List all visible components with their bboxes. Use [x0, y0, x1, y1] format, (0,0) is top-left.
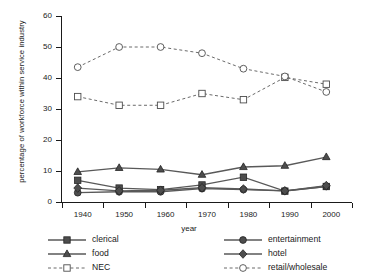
data-point-filled-diamond [240, 185, 248, 194]
y-tick-label: 20 [26, 135, 52, 144]
x-tick-label: 2000 [308, 210, 354, 219]
series-line [78, 186, 327, 191]
data-point-open-square [282, 74, 288, 80]
data-point-open-circle [281, 73, 288, 80]
y-tick [56, 16, 61, 17]
legend-label: retail/wholesale [268, 262, 327, 272]
legend-label: food [92, 248, 109, 258]
x-tick-label: 1940 [60, 210, 106, 219]
series-entertainment [74, 183, 329, 196]
data-point-open-square [199, 90, 205, 96]
legend-label: hotel [268, 248, 287, 258]
y-tick-label: 40 [26, 73, 52, 82]
legend-marker-open-circle-icon [222, 261, 264, 275]
x-tick-label: 1950 [101, 210, 147, 219]
y-tick [56, 78, 61, 79]
data-point-open-circle [116, 44, 123, 51]
data-point-filled-circle [74, 189, 81, 196]
data-point-open-square [75, 93, 81, 99]
data-point-filled-triangle [74, 168, 82, 175]
data-point-filled-circle [240, 186, 247, 193]
data-point-filled-diamond [281, 187, 289, 196]
y-tick-label: 30 [26, 104, 52, 113]
x-tick [311, 203, 312, 208]
y-tick-label: 10 [26, 166, 52, 175]
data-point-filled-square [116, 185, 122, 191]
legend-marker-filled-square-icon [46, 233, 88, 247]
y-tick-label: 60 [26, 11, 52, 20]
y-tick [56, 202, 61, 203]
data-point-open-circle [240, 265, 247, 272]
x-tick-label: 1980 [225, 210, 271, 219]
data-point-open-square [157, 102, 163, 108]
data-point-filled-circle [240, 237, 247, 244]
x-tick [228, 203, 229, 208]
series-line [78, 77, 327, 105]
x-tick [186, 203, 187, 208]
x-axis-line [61, 202, 352, 203]
data-point-open-circle [323, 89, 330, 96]
data-point-filled-triangle [115, 164, 123, 171]
series-line [78, 187, 327, 193]
data-point-open-circle [74, 64, 81, 71]
x-tick [145, 203, 146, 208]
y-tick [56, 171, 61, 172]
x-tick [269, 203, 270, 208]
x-tick [103, 203, 104, 208]
legend-label: entertainment [268, 234, 321, 244]
series-hotel [74, 181, 330, 195]
data-point-filled-diamond [322, 181, 330, 190]
data-point-open-square [116, 102, 122, 108]
legend-marker-filled-diamond-icon [222, 247, 264, 261]
series-NEC [75, 74, 330, 108]
x-tick [62, 203, 63, 208]
data-point-filled-triangle [281, 162, 289, 169]
data-point-filled-square [323, 183, 329, 189]
series-retail-wholesale [74, 44, 329, 96]
y-axis-title: percentage of workforce within service i… [17, 2, 26, 202]
y-tick [56, 109, 61, 110]
data-point-filled-circle [199, 185, 206, 192]
data-point-filled-triangle [322, 153, 330, 160]
data-point-filled-circle [157, 188, 164, 195]
series-line [78, 177, 327, 191]
series-line [78, 157, 327, 175]
data-point-open-circle [157, 44, 164, 51]
data-point-filled-diamond [239, 250, 247, 259]
data-point-open-square [64, 265, 70, 271]
x-tick-label: 1990 [267, 210, 313, 219]
data-point-open-square [240, 97, 246, 103]
data-point-filled-diamond [115, 187, 123, 196]
y-tick-label: 0 [26, 197, 52, 206]
x-tick-label: 1970 [184, 210, 230, 219]
data-point-filled-square [199, 182, 205, 188]
data-point-filled-circle [323, 183, 330, 190]
data-point-filled-triangle [157, 165, 165, 172]
legend-marker-open-square-icon [46, 261, 88, 275]
legend-marker-filled-triangle-icon [46, 247, 88, 261]
data-point-filled-square [75, 177, 81, 183]
x-axis-title: year [0, 224, 378, 233]
data-point-filled-triangle [198, 171, 206, 178]
y-tick [56, 47, 61, 48]
series-clerical [75, 174, 330, 194]
data-point-filled-diamond [198, 183, 206, 192]
data-point-open-circle [240, 65, 247, 72]
series-line [78, 47, 327, 92]
data-point-filled-circle [281, 187, 288, 194]
data-point-filled-diamond [74, 184, 82, 193]
legend-label: NEC [92, 262, 110, 272]
data-point-filled-diamond [157, 186, 165, 195]
y-axis-line [61, 16, 62, 203]
data-point-open-circle [199, 50, 206, 57]
data-point-filled-triangle [240, 163, 248, 170]
x-tick-label: 1960 [143, 210, 189, 219]
data-point-open-square [323, 81, 329, 87]
data-point-filled-circle [116, 188, 123, 195]
data-point-filled-square [240, 174, 246, 180]
data-point-filled-square [282, 188, 288, 194]
data-point-filled-square [64, 237, 70, 243]
y-tick [56, 140, 61, 141]
x-tick [352, 203, 353, 208]
data-point-filled-triangle [63, 250, 71, 257]
